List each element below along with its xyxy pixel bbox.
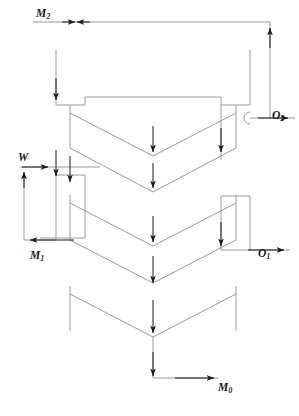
stream-label-w-base: W (18, 151, 28, 163)
stream-label-m0-base: M (218, 381, 228, 393)
stream-label-o1: O1 (258, 248, 270, 260)
stream-label-m0-sub: 0 (228, 386, 232, 395)
stream-label-m2-sub: 2 (46, 12, 50, 21)
stream-label-m0: M0 (218, 382, 232, 394)
o2-line-hop (244, 112, 250, 124)
stream-label-m1-base: M (30, 249, 40, 261)
flow-arrows (22, 22, 288, 378)
stage1-left-downcomer (56, 50, 85, 105)
stage2-left-drain (40, 175, 85, 238)
process-flow-diagram: M2 O2 W M1 O1 M0 (0, 0, 299, 416)
stage1-right-riser (221, 50, 250, 105)
flow-diagram-canvas (0, 0, 299, 416)
stream-label-w: W (18, 152, 28, 164)
stream-label-m1-sub: 1 (40, 254, 44, 263)
stream-label-m1: M1 (30, 250, 44, 262)
stream-label-m2-base: M (36, 7, 46, 19)
stream-label-o1-sub: 1 (267, 252, 271, 261)
stream-label-o2: O2 (272, 110, 284, 122)
pipework-lines (20, 22, 295, 378)
stream-label-o2-base: O (272, 109, 280, 121)
stream-label-m2: M2 (36, 8, 50, 20)
stream-label-o2-sub: 2 (281, 114, 285, 123)
stream-label-o1-base: O (258, 247, 266, 259)
